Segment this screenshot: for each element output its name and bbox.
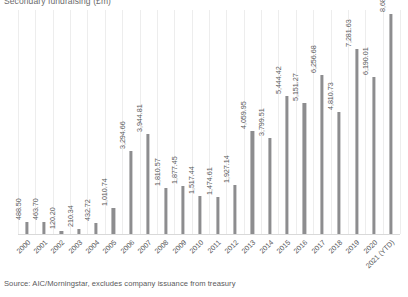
x-axis-baseline: [18, 234, 400, 235]
x-tick-label: 2016: [292, 238, 310, 256]
bar-value-label: 1,877.45: [170, 157, 179, 185]
bar[interactable]: [199, 196, 202, 234]
x-tick-label: 2008: [153, 238, 171, 256]
bar[interactable]: [181, 186, 184, 234]
x-axis-labels: 2000200120022003200420052006200720082009…: [18, 236, 400, 274]
bar[interactable]: [390, 14, 393, 234]
bar-value-label: 1,517.44: [188, 166, 197, 194]
bar-value-label: 432.72: [84, 199, 93, 221]
bar[interactable]: [286, 96, 289, 234]
bar[interactable]: [164, 188, 167, 234]
bar[interactable]: [112, 208, 115, 234]
chart-plot-area: 488.50463.70120.20210.34432.721,010.743,…: [18, 10, 400, 234]
x-tick-label: 2019: [344, 238, 362, 256]
bar-value-label: 7,281.63: [344, 20, 353, 48]
bar[interactable]: [129, 151, 132, 235]
bar[interactable]: [372, 77, 375, 234]
bar-value-label: 1,927.14: [222, 156, 231, 184]
x-tick-label: 2010: [188, 238, 206, 256]
bar[interactable]: [251, 131, 254, 234]
bar-value-label: 3,799.51: [257, 108, 266, 136]
bar-value-label: 1,474.61: [205, 167, 214, 195]
x-tick-label: 2015: [275, 238, 293, 256]
gridline: [400, 10, 401, 234]
bar[interactable]: [355, 49, 358, 234]
bar[interactable]: [42, 222, 45, 234]
bar-value-label: 210.34: [66, 205, 75, 227]
bar-value-label: 5,444.42: [275, 66, 284, 94]
x-tick-label: 2001: [32, 238, 50, 256]
bar-series: 488.50463.70120.20210.34432.721,010.743,…: [18, 10, 400, 234]
x-tick-label: 2018: [327, 238, 345, 256]
bar-value-label: 488.50: [14, 198, 23, 220]
x-tick-label: 2006: [118, 238, 136, 256]
bar-value-label: 120.20: [49, 207, 58, 229]
x-tick-label: 2012: [223, 238, 241, 256]
bar-value-label: 4,059.95: [240, 102, 249, 130]
bar[interactable]: [320, 75, 323, 234]
bar-value-label: 3,294.66: [118, 121, 127, 149]
bar-value-label: 6,190.01: [361, 48, 370, 76]
x-tick-label: 2000: [14, 238, 32, 256]
bar[interactable]: [338, 112, 341, 234]
x-tick-label: 2004: [84, 238, 102, 256]
x-tick-label: 2005: [101, 238, 119, 256]
bar-value-label: 4,810.73: [327, 83, 336, 111]
bar[interactable]: [25, 222, 28, 234]
bar-value-label: 1,810.57: [153, 159, 162, 187]
x-tick-label: 2017: [309, 238, 327, 256]
bar[interactable]: [216, 197, 219, 234]
bar-value-label: 1,010.74: [101, 179, 110, 207]
x-tick-label: 2003: [66, 238, 84, 256]
source-note: Source: AIC/Morningstar, excludes compan…: [4, 279, 236, 288]
bar[interactable]: [303, 103, 306, 234]
bar[interactable]: [268, 138, 271, 234]
bar[interactable]: [233, 185, 236, 234]
x-tick-label: 2009: [170, 238, 188, 256]
bar-value-label: 5,151.27: [292, 74, 301, 102]
chart-title: Secondary fundraising (£m): [4, 0, 111, 6]
bar-value-label: 8,680.43: [379, 0, 388, 12]
x-tick-label: 2002: [49, 238, 67, 256]
bar[interactable]: [147, 134, 150, 234]
x-tick-label: 2007: [136, 238, 154, 256]
bar-value-label: 3,944.81: [136, 104, 145, 132]
bar[interactable]: [95, 223, 98, 234]
bar-value-label: 6,256.68: [309, 46, 318, 74]
x-tick-label: 2013: [240, 238, 258, 256]
bar-value-label: 463.70: [31, 199, 40, 221]
x-tick-label: 2011: [206, 238, 223, 255]
x-tick-label: 2014: [257, 238, 275, 256]
